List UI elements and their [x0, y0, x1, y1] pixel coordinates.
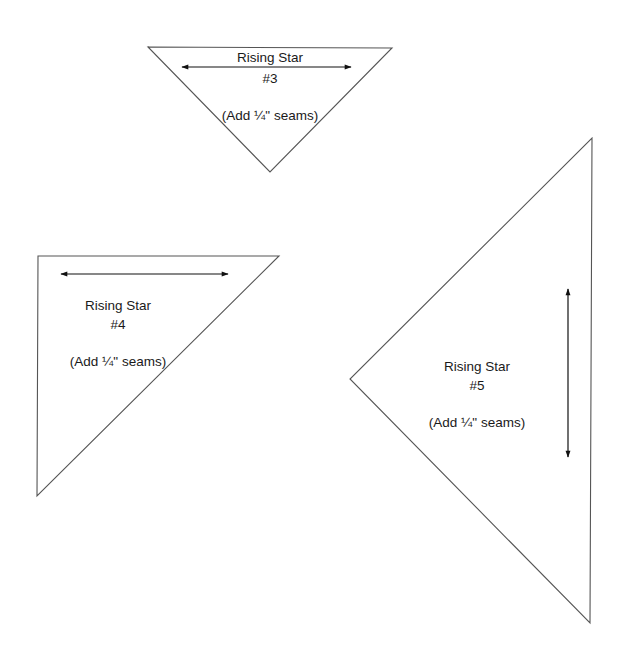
template-title: Rising Star: [85, 299, 151, 313]
template-rising-star-4: [37, 256, 279, 496]
template-shapes: [0, 0, 627, 654]
triangle-outline-4: [37, 256, 279, 496]
seam-allowance-note: (Add ¼" seams): [222, 109, 318, 123]
seam-allowance-note: (Add ¼" seams): [429, 416, 525, 430]
pattern-sheet: Rising Star #3 (Add ¼" seams) Rising Sta…: [0, 0, 627, 654]
template-title: Rising Star: [237, 51, 303, 65]
template-number: #3: [262, 72, 277, 86]
template-number: #4: [110, 318, 125, 332]
template-number: #5: [469, 379, 484, 393]
seam-allowance-note: (Add ¼" seams): [70, 355, 166, 369]
template-title: Rising Star: [444, 360, 510, 374]
